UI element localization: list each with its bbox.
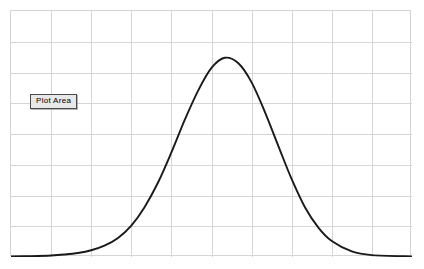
plot-area[interactable] — [10, 10, 411, 256]
plot-area-tooltip-label: Plot Area — [36, 96, 71, 105]
series-path — [11, 58, 412, 257]
chart-container: Plot Area — [0, 0, 424, 269]
plot-area-tooltip: Plot Area — [30, 94, 77, 109]
chart-series-normal-curve — [11, 11, 412, 257]
